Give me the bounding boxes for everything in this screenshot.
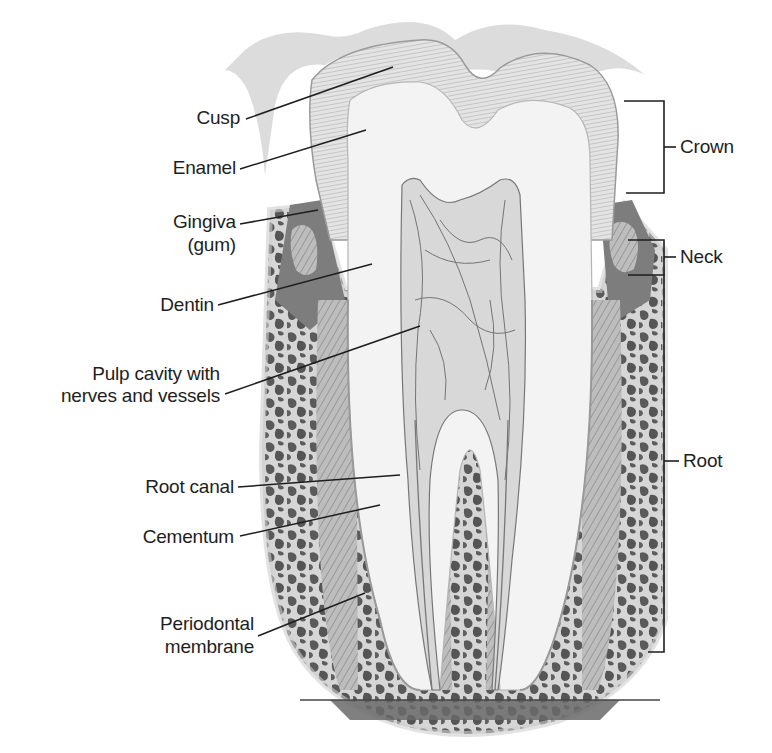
label-gingiva: Gingiva [130,211,236,233]
label-cusp: Cusp [150,107,240,129]
label-periodontal-membrane: membrane [100,636,254,658]
label-crown: Crown [680,136,734,158]
label-pulp-cavity: Pulp cavity with [20,363,220,385]
label-periodontal: Periodontal [100,613,254,635]
label-dentin: Dentin [110,294,214,316]
label-root: Root [683,450,722,472]
tooth-diagram: Cusp Enamel Gingiva (gum) Dentin Pulp ca… [0,0,772,753]
label-cementum: Cementum [80,526,234,548]
label-pulp-cavity-nerves: nerves and vessels [20,385,220,407]
label-enamel: Enamel [130,157,236,179]
label-gingiva-gum: (gum) [130,234,236,256]
label-neck: Neck [680,246,723,268]
label-root-canal: Root canal [80,476,234,498]
